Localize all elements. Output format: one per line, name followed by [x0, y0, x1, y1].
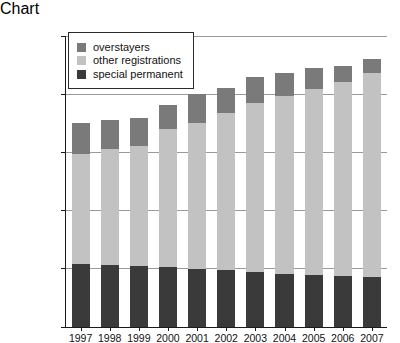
y-axis-tick — [61, 152, 66, 153]
bar-segment-overstayers — [159, 105, 177, 129]
bar-segment-special-permanent — [159, 267, 177, 327]
bar-segment-overstayers — [246, 77, 264, 103]
bar-segment-special-permanent — [101, 265, 119, 327]
bar-1997 — [72, 123, 90, 327]
stacked-bar-chart: 0500000100000015000002000000250000019971… — [0, 18, 400, 343]
bar-segment-other-registrations — [188, 123, 206, 269]
bar-segment-overstayers — [101, 120, 119, 149]
y-axis-tick — [61, 36, 66, 37]
x-axis-tick — [372, 327, 373, 331]
bar-segment-special-permanent — [188, 269, 206, 327]
chart-legend: overstayersother registrationsspecial pe… — [68, 32, 194, 89]
bar-2000 — [159, 105, 177, 327]
bar-segment-other-registrations — [72, 154, 90, 264]
bar-segment-overstayers — [72, 123, 90, 154]
bar-segment-overstayers — [188, 94, 206, 122]
y-axis-tick — [61, 268, 66, 269]
x-axis-tick-label: 2004 — [270, 332, 299, 343]
bar-segment-other-registrations — [363, 73, 381, 278]
bar-2006 — [334, 66, 352, 327]
legend-item-special-permanent: special permanent — [77, 69, 183, 80]
bar-segment-special-permanent — [334, 276, 352, 327]
y-axis-tick — [61, 94, 66, 95]
legend-item-other-registrations: other registrations — [77, 55, 183, 66]
bar-segment-special-permanent — [246, 272, 264, 327]
bar-segment-overstayers — [275, 73, 293, 96]
bar-segment-overstayers — [334, 66, 352, 82]
x-axis-tick-label: 2006 — [328, 332, 357, 343]
x-axis-tick-label: 2002 — [212, 332, 241, 343]
x-axis-tick-label: 2003 — [241, 332, 270, 343]
bar-segment-overstayers — [217, 88, 235, 114]
legend-item-overstayers: overstayers — [77, 42, 183, 53]
x-axis-tick — [255, 327, 256, 331]
bar-1999 — [130, 118, 148, 327]
bar-segment-other-registrations — [246, 103, 264, 272]
bar-1998 — [101, 120, 119, 327]
x-axis-tick — [139, 327, 140, 331]
x-axis-tick-label: 2005 — [299, 332, 328, 343]
bar-2004 — [275, 73, 293, 327]
bar-segment-overstayers — [363, 59, 381, 72]
bar-segment-special-permanent — [217, 270, 235, 327]
bar-segment-special-permanent — [275, 274, 293, 327]
x-axis-tick-label: 2007 — [357, 332, 386, 343]
bar-2001 — [188, 94, 206, 327]
bar-2003 — [246, 77, 264, 327]
bar-segment-special-permanent — [72, 264, 90, 327]
x-axis-tick — [197, 327, 198, 331]
y-axis-tick — [61, 327, 66, 328]
bar-segment-other-registrations — [101, 149, 119, 265]
bar-segment-other-registrations — [275, 96, 293, 274]
x-axis-tick — [285, 327, 286, 331]
legend-swatch-icon — [77, 56, 86, 65]
bar-segment-other-registrations — [130, 146, 148, 266]
x-axis-tick — [81, 327, 82, 331]
bar-segment-other-registrations — [159, 129, 177, 267]
legend-swatch-icon — [77, 70, 86, 79]
bar-segment-special-permanent — [363, 277, 381, 327]
x-axis-tick — [226, 327, 227, 331]
x-axis-tick — [110, 327, 111, 331]
x-axis-tick-label: 2000 — [153, 332, 182, 343]
bar-segment-other-registrations — [305, 89, 323, 275]
bar-segment-other-registrations — [334, 82, 352, 276]
x-axis-tick-label: 1998 — [95, 332, 124, 343]
y-axis-tick — [61, 210, 66, 211]
legend-swatch-icon — [77, 43, 86, 52]
x-axis-tick — [314, 327, 315, 331]
bar-2002 — [217, 88, 235, 327]
bar-segment-special-permanent — [130, 266, 148, 327]
x-axis-tick — [343, 327, 344, 331]
legend-item-label: special permanent — [93, 69, 183, 80]
x-axis-tick-label: 2001 — [183, 332, 212, 343]
bar-segment-overstayers — [130, 118, 148, 146]
x-axis-tick-label: 1999 — [124, 332, 153, 343]
bar-segment-other-registrations — [217, 113, 235, 270]
bar-2007 — [363, 59, 381, 327]
bar-segment-special-permanent — [305, 275, 323, 327]
bar-2005 — [305, 68, 323, 327]
x-axis-tick — [168, 327, 169, 331]
legend-item-label: overstayers — [93, 42, 150, 53]
legend-item-label: other registrations — [93, 55, 181, 66]
bar-segment-overstayers — [305, 68, 323, 89]
x-axis-tick-label: 1997 — [66, 332, 95, 343]
